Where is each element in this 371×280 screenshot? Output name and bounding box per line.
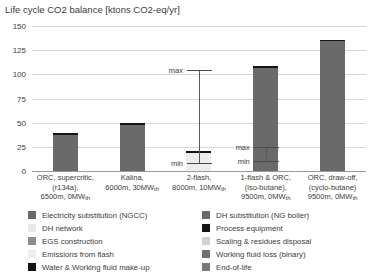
legend-label: Electricity substitution (NGCC) xyxy=(42,211,147,220)
legend-label: DH network xyxy=(42,224,83,233)
error-bar-label-max: max xyxy=(236,142,253,151)
bar-stack[interactable] xyxy=(320,40,345,171)
y-tick-label: 125 xyxy=(13,46,26,55)
bar-stack[interactable] xyxy=(53,133,78,171)
legend-swatch-icon xyxy=(202,250,210,258)
x-tick-label: 1-flash & ORC,(iso-butane),9500m, 0MWth xyxy=(241,173,291,204)
legend-label: DH substitution (NG boiler) xyxy=(216,211,309,220)
y-tick-label: 150 xyxy=(13,22,26,31)
error-bar-cap-min xyxy=(254,161,279,162)
legend-label: EGS construction xyxy=(42,237,103,246)
legend-label: Process equipment xyxy=(216,224,283,233)
y-tick-label: 75 xyxy=(17,94,26,103)
legend-swatch-icon xyxy=(28,211,36,219)
error-bar-label-min: min xyxy=(238,157,253,166)
x-tick-label: Kalina,6000m, 30MWth xyxy=(105,173,159,194)
y-tick-label: 50 xyxy=(17,118,26,127)
legend-swatch-icon xyxy=(202,263,210,271)
legend-swatch-icon xyxy=(202,224,210,232)
y-tick-label: 0 xyxy=(22,167,26,176)
error-bar-cap-max xyxy=(254,147,279,148)
legend-item[interactable]: Emissions from flash xyxy=(28,248,202,260)
legend-item[interactable]: End-of-life xyxy=(202,261,368,273)
bar-group xyxy=(299,26,366,171)
error-bar-cap-min xyxy=(187,163,212,164)
legend-swatch-icon xyxy=(202,237,210,245)
legend-column-left: Electricity substitution (NGCC)DH networ… xyxy=(28,209,202,273)
bar-group xyxy=(99,26,166,171)
legend-label: Working fluid loss (binary) xyxy=(216,250,306,259)
legend-item[interactable]: Electricity substitution (NGCC) xyxy=(28,209,202,221)
legend-item[interactable]: Scaling & residues disposal xyxy=(202,235,368,247)
chart-title: Life cycle CO2 balance [ktons CO2-eq/yr] xyxy=(5,4,180,15)
x-axis-labels: ORC, supercritic,(r134a),6500m, 0MWthKal… xyxy=(32,173,366,203)
gridline-0 xyxy=(32,171,366,172)
y-tick-label: 100 xyxy=(13,70,26,79)
error-bar-label-min: min xyxy=(171,159,186,168)
legend-swatch-icon xyxy=(28,224,36,232)
legend-label: Emissions from flash xyxy=(42,250,114,259)
legend: Electricity substitution (NGCC)DH networ… xyxy=(28,209,368,273)
bar-stack[interactable] xyxy=(120,123,145,171)
legend-item[interactable]: DH network xyxy=(28,222,202,234)
chart-figure: Life cycle CO2 balance [ktons CO2-eq/yr]… xyxy=(0,0,371,280)
bar-segment xyxy=(53,135,78,171)
legend-swatch-icon xyxy=(202,211,210,219)
error-bar-line xyxy=(266,147,267,162)
legend-label: Water & Working fluid make-up xyxy=(42,263,149,272)
x-tick-label: ORC, draw-off,(cyclo-butane)9500m, 0MWth xyxy=(308,173,358,204)
legend-item[interactable]: Water & Working fluid make-up xyxy=(28,261,202,273)
legend-item[interactable]: EGS construction xyxy=(28,235,202,247)
legend-item[interactable]: DH substitution (NG boiler) xyxy=(202,209,368,221)
error-bar-label-max: max xyxy=(169,65,186,74)
bar-segment xyxy=(320,41,345,171)
plot-area: maxminmaxmin xyxy=(32,26,366,171)
legend-swatch-icon xyxy=(28,263,36,271)
x-tick-label: 2-flash,8000m, 10MWth xyxy=(172,173,226,194)
legend-column-right: DH substitution (NG boiler)Process equip… xyxy=(202,209,368,273)
legend-label: Scaling & residues disposal xyxy=(216,237,311,246)
bar-group xyxy=(32,26,99,171)
legend-item[interactable]: Process equipment xyxy=(202,222,368,234)
legend-label: End-of-life xyxy=(216,263,252,272)
x-tick-label: ORC, supercritic,(r134a),6500m, 0MWth xyxy=(37,173,94,204)
bar-segment xyxy=(120,125,145,171)
error-bar-cap-max xyxy=(187,70,212,71)
legend-item[interactable]: Working fluid loss (binary) xyxy=(202,248,368,260)
y-axis-labels: 0255075100125150 xyxy=(0,26,30,171)
y-tick-label: 25 xyxy=(17,142,26,151)
legend-swatch-icon xyxy=(28,250,36,258)
legend-swatch-icon xyxy=(28,237,36,245)
error-bar-line xyxy=(199,70,200,164)
